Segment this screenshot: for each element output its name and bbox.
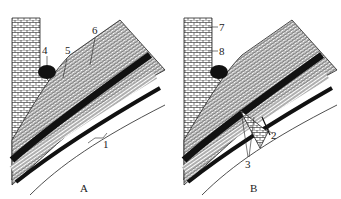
- axillary-bud: [38, 65, 56, 79]
- caption-a: A: [80, 182, 88, 194]
- label-3: 3: [245, 158, 251, 170]
- stem-branch-diagram-b: 7 8 2 3 B: [170, 0, 340, 199]
- label-6: 6: [92, 24, 98, 36]
- label-7: 7: [219, 21, 225, 33]
- panel-b: 7 8 2 3 B: [170, 0, 340, 199]
- stem-branch-diagram-a: 4 5 6 1 A: [0, 0, 170, 199]
- panel-a: 4 5 6 1 A: [0, 0, 170, 199]
- label-8: 8: [219, 45, 225, 57]
- axillary-bud: [210, 65, 228, 79]
- label-1: 1: [103, 138, 109, 150]
- label-5: 5: [65, 44, 71, 56]
- label-4: 4: [42, 44, 48, 56]
- label-2: 2: [271, 129, 277, 141]
- caption-b: B: [250, 182, 257, 194]
